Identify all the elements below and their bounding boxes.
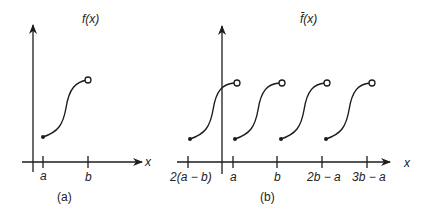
- periodic-extension-diagram: f(x) x a b (a) f̄(x) x 2(a −: [0, 0, 430, 216]
- tick-label-2b-a: 2b − a: [306, 170, 341, 184]
- panel-a: f(x) x a b (a): [22, 12, 152, 204]
- periodic-curves: [188, 80, 375, 141]
- caption-b: (b): [260, 190, 275, 204]
- closed-endpoint: [41, 135, 45, 139]
- caption-a: (a): [57, 190, 72, 204]
- function-label-b: f̄(x): [300, 12, 317, 26]
- x-label-a: x: [144, 155, 152, 169]
- panel-b: f̄(x) x 2(a − b) a b 2b − a 3b − a (b): [169, 12, 411, 204]
- tick-label-b: b: [85, 170, 92, 184]
- tick-label-a: a: [40, 169, 47, 183]
- tick-label-a: a: [230, 170, 237, 184]
- tick-label-b: b: [274, 170, 281, 184]
- tick-label-2a-b: 2(a − b): [169, 170, 212, 184]
- open-endpoint: [85, 77, 91, 83]
- function-curve-a: [43, 80, 87, 137]
- function-label-a: f(x): [82, 12, 99, 26]
- tick-label-3b-a: 3b − a: [352, 170, 386, 184]
- x-label-b: x: [403, 156, 411, 170]
